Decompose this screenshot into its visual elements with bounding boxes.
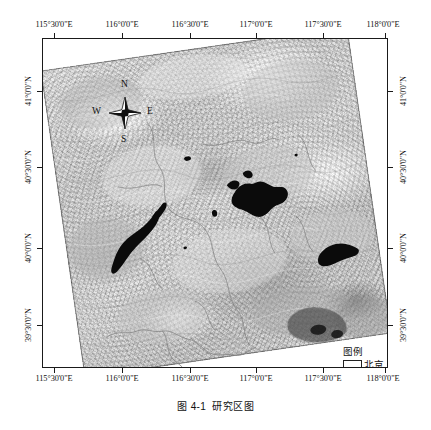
axis-label-bottom-1: 115°30'0"E (36, 374, 73, 383)
axis-label-right-1: 41°0'0"N (399, 76, 408, 106)
tick-left-2 (37, 167, 42, 168)
north-arrow-compass: N S E W (93, 81, 157, 145)
tick-bottom-5 (323, 368, 324, 373)
axis-label-bottom-2: 116°0'0"E (106, 374, 139, 383)
tick-top-3 (190, 33, 191, 38)
axis-label-top-5: 117°30'0"E (305, 20, 342, 29)
map-legend: 图例 北京 (339, 344, 388, 368)
tick-left-4 (37, 325, 42, 326)
axis-label-bottom-3: 116°30'0"E (172, 374, 209, 383)
figure-caption-number: 图 4-1 (177, 401, 206, 412)
legend-label-beijing: 北京 (364, 360, 384, 369)
tick-top-6 (385, 33, 386, 38)
tick-top-2 (122, 33, 123, 38)
tick-bottom-3 (190, 368, 191, 373)
axis-label-top-3: 116°30'0"E (172, 20, 209, 29)
axis-label-right-3: 40°0'0"N (399, 233, 408, 263)
figure-caption: 图 4-1研究区图 (0, 398, 431, 413)
axis-label-bottom-4: 117°0'0"E (240, 374, 273, 383)
legend-swatch-beijing (343, 360, 362, 368)
axis-label-left-2: 40°30'0"N (24, 150, 33, 184)
tick-right-4 (388, 325, 393, 326)
tick-left-3 (37, 248, 42, 249)
axis-label-right-4: 39°30'0"N (399, 308, 408, 342)
compass-label-south: S (121, 134, 126, 144)
tick-top-1 (54, 33, 55, 38)
tick-left-1 (37, 91, 42, 92)
figure-page: N S E W 0 10 20 40 60 80 km (0, 0, 431, 430)
axis-label-top-1: 115°30'0"E (36, 20, 73, 29)
tick-bottom-2 (122, 368, 123, 373)
tick-right-3 (388, 248, 393, 249)
compass-label-north: N (121, 79, 128, 89)
tick-bottom-4 (256, 368, 257, 373)
axis-label-bottom-5: 117°30'0"E (305, 374, 342, 383)
axis-label-right-2: 40°30'0"N (399, 150, 408, 184)
axis-label-top-4: 117°0'0"E (240, 20, 273, 29)
axis-label-left-1: 41°0'0"N (24, 76, 33, 106)
compass-label-east: E (147, 106, 153, 116)
axis-label-left-4: 39°30'0"N (24, 308, 33, 342)
legend-title: 图例 (343, 347, 388, 357)
tick-bottom-1 (54, 368, 55, 373)
tick-right-2 (388, 167, 393, 168)
tick-bottom-6 (385, 368, 386, 373)
map-frame: N S E W 0 10 20 40 60 80 km (42, 38, 388, 368)
compass-label-west: W (92, 106, 101, 116)
tick-right-1 (388, 91, 393, 92)
figure-caption-title: 研究区图 (212, 401, 254, 412)
axis-label-top-6: 118°0'0"E (367, 20, 400, 29)
axis-label-bottom-6: 118°0'0"E (367, 374, 400, 383)
legend-item-beijing: 北京 (343, 360, 388, 369)
axis-label-left-3: 40°0'0"N (24, 233, 33, 263)
tick-top-4 (256, 33, 257, 38)
tick-top-5 (323, 33, 324, 38)
axis-label-top-2: 116°0'0"E (106, 20, 139, 29)
